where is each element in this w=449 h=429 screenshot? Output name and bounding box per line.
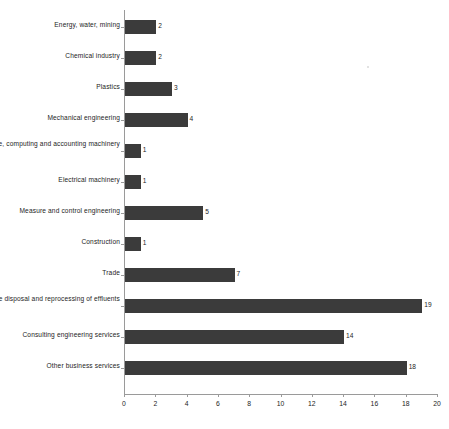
x-axis-tick-label: 10 bbox=[269, 400, 293, 407]
bar-value-label: 4 bbox=[190, 115, 194, 123]
bar bbox=[125, 144, 141, 158]
bar-value-label: 14 bbox=[346, 332, 353, 340]
x-axis-tick-label: 14 bbox=[331, 400, 355, 407]
bar bbox=[125, 206, 203, 220]
x-axis-tick-label: 0 bbox=[112, 400, 136, 407]
category-label: Energy, water, mining bbox=[0, 21, 120, 29]
bar-row: Electrical machinery1 bbox=[0, 167, 449, 198]
bar-value-label: 1 bbox=[143, 239, 147, 247]
x-axis-tick bbox=[218, 394, 219, 397]
bar-row: Measure and control engineering5 bbox=[0, 198, 449, 229]
x-axis-tick-label: 18 bbox=[394, 400, 418, 407]
category-label: Trade bbox=[0, 269, 120, 277]
x-axis-tick-label: 6 bbox=[206, 400, 230, 407]
category-label: Plastics bbox=[0, 83, 120, 91]
bar-chart: Energy, water, mining2Chemical industry2… bbox=[0, 0, 449, 429]
bar-row: Chemical industry2 bbox=[0, 43, 449, 74]
bar-row: Services: waste disposal and reprocessin… bbox=[0, 291, 449, 322]
bar bbox=[125, 113, 188, 127]
bar-value-label: 5 bbox=[205, 208, 209, 216]
bar bbox=[125, 51, 156, 65]
x-axis-tick-label: 16 bbox=[362, 400, 386, 407]
y-axis-tick bbox=[121, 58, 124, 59]
bar-row: Trade7 bbox=[0, 260, 449, 291]
bar-value-label: 1 bbox=[143, 146, 147, 154]
bar bbox=[125, 330, 344, 344]
y-axis-tick bbox=[121, 89, 124, 90]
bar bbox=[125, 20, 156, 34]
y-axis-tick bbox=[121, 213, 124, 214]
bar bbox=[125, 268, 235, 282]
y-axis-tick bbox=[121, 182, 124, 183]
x-axis-tick-label: 12 bbox=[300, 400, 324, 407]
bar bbox=[125, 237, 141, 251]
bar bbox=[125, 361, 407, 375]
y-axis-tick bbox=[121, 275, 124, 276]
bar-value-label: 18 bbox=[409, 363, 416, 371]
x-axis-tick bbox=[155, 394, 156, 397]
bar bbox=[125, 82, 172, 96]
bar-row: Mechanical engineering4 bbox=[0, 105, 449, 136]
bar-value-label: 7 bbox=[237, 270, 241, 278]
bar-value-label: 1 bbox=[143, 177, 147, 185]
category-label: Office, computing and accounting machine… bbox=[0, 140, 120, 148]
bar-row: Construction1 bbox=[0, 229, 449, 260]
y-axis-tick bbox=[121, 27, 124, 28]
x-axis-tick-label: 2 bbox=[143, 400, 167, 407]
category-label: Mechanical engineering bbox=[0, 114, 120, 122]
bar bbox=[125, 299, 422, 313]
bar-row: Consulting engineering services14 bbox=[0, 322, 449, 353]
bar-value-label: 2 bbox=[158, 53, 162, 61]
y-axis-tick bbox=[121, 120, 124, 121]
x-axis-tick bbox=[437, 394, 438, 397]
category-label: Chemical industry bbox=[0, 52, 120, 60]
y-axis-tick bbox=[121, 368, 124, 369]
category-label: Electrical machinery bbox=[0, 176, 120, 184]
bar-value-label: 19 bbox=[424, 301, 431, 309]
category-label: Measure and control engineering bbox=[0, 207, 120, 215]
x-axis-tick bbox=[124, 394, 125, 397]
x-axis-tick bbox=[281, 394, 282, 397]
bar-row: Plastics3 bbox=[0, 74, 449, 105]
x-axis-tick bbox=[249, 394, 250, 397]
bar-row: Energy, water, mining2 bbox=[0, 12, 449, 43]
bar bbox=[125, 175, 141, 189]
x-axis-tick-label: 4 bbox=[175, 400, 199, 407]
x-axis-tick bbox=[374, 394, 375, 397]
bar-row: Office, computing and accounting machine… bbox=[0, 136, 449, 167]
y-axis-tick bbox=[121, 337, 124, 338]
x-axis-tick bbox=[187, 394, 188, 397]
x-axis-tick-label: 20 bbox=[425, 400, 449, 407]
category-label: Other business services bbox=[0, 362, 120, 370]
y-axis-tick bbox=[121, 306, 124, 307]
x-axis-tick-label: 8 bbox=[237, 400, 261, 407]
x-axis-tick bbox=[343, 394, 344, 397]
bar-value-label: 3 bbox=[174, 84, 178, 92]
category-label: Construction bbox=[0, 238, 120, 246]
category-label: Consulting engineering services bbox=[0, 331, 120, 339]
x-axis-tick bbox=[312, 394, 313, 397]
x-axis-tick bbox=[406, 394, 407, 397]
bar-row: Other business services18 bbox=[0, 353, 449, 384]
y-axis-tick bbox=[121, 151, 124, 152]
bar-value-label: 2 bbox=[158, 22, 162, 30]
y-axis-tick bbox=[121, 244, 124, 245]
category-label: Services: waste disposal and reprocessin… bbox=[0, 295, 120, 303]
